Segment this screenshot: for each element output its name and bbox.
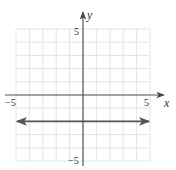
y-axis-label: y: [86, 8, 93, 22]
x-tick-label-neg5: −5: [5, 97, 16, 108]
y-tick-label-5: 5: [74, 26, 79, 37]
y-tick-label-neg5: −5: [68, 155, 79, 166]
x-axis-label: x: [163, 96, 170, 110]
coordinate-plane: −5 5 5 −5 x y: [0, 0, 176, 170]
x-tick-label-5: 5: [144, 97, 149, 108]
